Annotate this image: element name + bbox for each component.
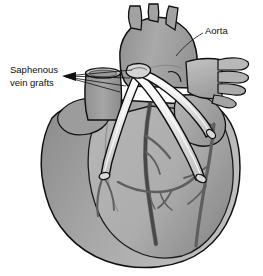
svc-trunk [85, 72, 122, 120]
saphenous-leader-arrow [62, 72, 76, 81]
left-common-carotid-artery [148, 4, 159, 22]
pulmonary-vein-trunk [186, 59, 222, 99]
graft-proximal-anastomoses [126, 64, 151, 79]
label-saphenous-vein-grafts-line1: Saphenous [10, 64, 58, 75]
pulmonary-vein-branch-3 [218, 84, 245, 95]
brachiocephalic-trunk [129, 6, 142, 30]
cabg-heart-illustration: Aorta Saphenous vein grafts [0, 0, 263, 276]
illustration-canvas: Aorta Saphenous vein grafts [0, 0, 263, 276]
pulmonary-vein-branch-2 [218, 71, 248, 83]
heart-body [41, 95, 240, 268]
pulmonary-vein-branch-1 [218, 58, 249, 70]
label-aorta: Aorta [205, 25, 228, 36]
label-saphenous-vein-grafts-line2: vein grafts [10, 77, 54, 88]
superior-vena-cava [85, 68, 122, 120]
